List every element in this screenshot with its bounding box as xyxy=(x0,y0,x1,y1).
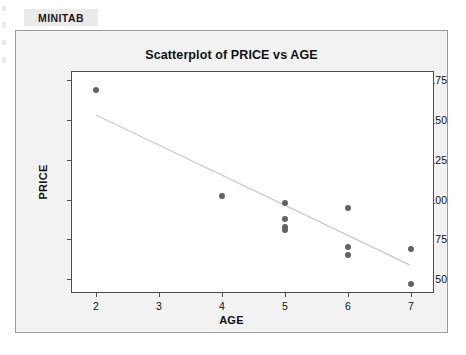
x-tick-label: 4 xyxy=(219,300,225,312)
x-tick-label: 2 xyxy=(93,300,99,312)
plot-area xyxy=(71,71,434,293)
data-point xyxy=(282,200,288,206)
scan-artifact xyxy=(2,22,6,28)
x-tick-mark xyxy=(411,293,412,297)
x-tick-mark xyxy=(222,293,223,297)
data-point xyxy=(408,281,414,287)
x-tick-label: 3 xyxy=(156,300,162,312)
x-tick-mark xyxy=(159,293,160,297)
x-tick-label: 7 xyxy=(408,300,414,312)
x-tick-label: 5 xyxy=(282,300,288,312)
x-axis-title: AGE xyxy=(16,314,447,326)
data-point xyxy=(345,205,351,211)
x-tick-mark xyxy=(348,293,349,297)
scan-artifact xyxy=(2,40,6,45)
data-point xyxy=(408,246,414,252)
data-point xyxy=(282,216,288,222)
regression-line xyxy=(72,72,433,292)
plot-inner xyxy=(72,72,433,292)
data-point xyxy=(93,87,99,93)
scan-artifact xyxy=(2,57,6,63)
chart-title: Scatterplot of PRICE vs AGE xyxy=(16,48,447,62)
scan-artifact xyxy=(2,6,6,11)
data-point xyxy=(282,227,288,233)
x-tick-mark xyxy=(96,293,97,297)
y-axis-title: PRICE xyxy=(37,164,49,199)
x-tick-mark xyxy=(285,293,286,297)
figure-panel: Scatterplot of PRICE vs AGE PRICE 507510… xyxy=(15,30,448,333)
minitab-label: MINITAB xyxy=(24,9,98,26)
x-tick-label: 6 xyxy=(345,300,351,312)
